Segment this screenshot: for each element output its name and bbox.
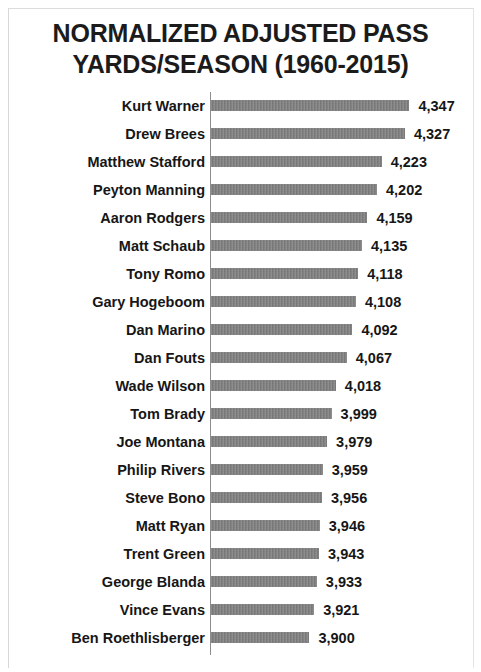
bar-row: Joe Montana3,979 — [0, 428, 481, 456]
category-label: Tony Romo — [0, 260, 205, 288]
chart-title-line-1: NORMALIZED ADJUSTED PASS — [14, 18, 467, 49]
bar-row: Drew Brees4,327 — [0, 120, 481, 148]
bar-row: Ben Roethlisberger3,900 — [0, 624, 481, 652]
value-label: 4,135 — [371, 232, 407, 260]
bar-row: Philip Rivers3,959 — [0, 456, 481, 484]
bar-row: George Blanda3,933 — [0, 568, 481, 596]
category-label: Drew Brees — [0, 120, 205, 148]
bar-row: Tom Brady3,999 — [0, 400, 481, 428]
value-label: 4,159 — [376, 204, 412, 232]
bar — [211, 352, 347, 363]
bar — [211, 240, 362, 251]
category-label: Tom Brady — [0, 400, 205, 428]
bar-row: Steve Bono3,956 — [0, 484, 481, 512]
value-label: 4,202 — [386, 176, 422, 204]
bar — [211, 436, 327, 447]
category-label: George Blanda — [0, 568, 205, 596]
value-label: 3,956 — [331, 484, 367, 512]
bar — [211, 408, 332, 419]
bar-row: Trent Green3,943 — [0, 540, 481, 568]
bar-row: Aaron Rodgers4,159 — [0, 204, 481, 232]
value-label: 4,118 — [367, 260, 403, 288]
bar-row: Kurt Warner4,347 — [0, 92, 481, 120]
value-label: 3,921 — [323, 596, 359, 624]
category-label: Dan Marino — [0, 316, 205, 344]
value-label: 3,900 — [318, 624, 354, 652]
value-label: 3,933 — [326, 568, 362, 596]
category-label: Matt Ryan — [0, 512, 205, 540]
chart-title-line-2: YARDS/SEASON (1960-2015) — [14, 49, 467, 80]
category-label: Philip Rivers — [0, 456, 205, 484]
value-label: 4,347 — [418, 92, 454, 120]
bar-row: Dan Fouts4,067 — [0, 344, 481, 372]
bar — [211, 520, 320, 531]
bar-row: Wade Wilson4,018 — [0, 372, 481, 400]
bar-row: Matt Schaub4,135 — [0, 232, 481, 260]
category-label: Trent Green — [0, 540, 205, 568]
category-label: Gary Hogeboom — [0, 288, 205, 316]
bar — [211, 296, 356, 307]
category-label: Matthew Stafford — [0, 148, 205, 176]
bar-row: Matthew Stafford4,223 — [0, 148, 481, 176]
bar — [211, 632, 309, 643]
value-label: 4,223 — [391, 148, 427, 176]
category-label: Vince Evans — [0, 596, 205, 624]
category-label: Peyton Manning — [0, 176, 205, 204]
category-label: Aaron Rodgers — [0, 204, 205, 232]
value-label: 4,092 — [361, 316, 397, 344]
bar — [211, 604, 314, 615]
bar-row: Vince Evans3,921 — [0, 596, 481, 624]
value-label: 4,108 — [365, 288, 401, 316]
category-label: Ben Roethlisberger — [0, 624, 205, 652]
bar — [211, 464, 323, 475]
category-label: Kurt Warner — [0, 92, 205, 120]
bar — [211, 212, 367, 223]
bar — [211, 268, 358, 279]
bar — [211, 380, 336, 391]
value-label: 3,943 — [328, 540, 364, 568]
bar-row: Tony Romo4,118 — [0, 260, 481, 288]
plot-area: Kurt Warner4,347Drew Brees4,327Matthew S… — [0, 92, 481, 658]
category-label: Matt Schaub — [0, 232, 205, 260]
value-label: 3,999 — [341, 400, 377, 428]
bar — [211, 324, 352, 335]
bar-row: Matt Ryan3,946 — [0, 512, 481, 540]
value-label: 3,959 — [332, 456, 368, 484]
category-label: Wade Wilson — [0, 372, 205, 400]
category-label: Dan Fouts — [0, 344, 205, 372]
bar-row: Peyton Manning4,202 — [0, 176, 481, 204]
value-label: 3,979 — [336, 428, 372, 456]
value-label: 4,327 — [414, 120, 450, 148]
value-label: 4,067 — [356, 344, 392, 372]
chart-title: NORMALIZED ADJUSTED PASS YARDS/SEASON (1… — [14, 18, 467, 80]
bar-row: Dan Marino4,092 — [0, 316, 481, 344]
bar — [211, 492, 322, 503]
bar-row: Gary Hogeboom4,108 — [0, 288, 481, 316]
value-label: 3,946 — [329, 512, 365, 540]
bar-chart: NORMALIZED ADJUSTED PASS YARDS/SEASON (1… — [0, 0, 481, 672]
category-label: Steve Bono — [0, 484, 205, 512]
bar — [211, 184, 377, 195]
value-label: 4,018 — [345, 372, 381, 400]
bar — [211, 100, 409, 111]
bar — [211, 576, 317, 587]
bar — [211, 156, 382, 167]
bar — [211, 128, 405, 139]
category-label: Joe Montana — [0, 428, 205, 456]
bar — [211, 548, 319, 559]
